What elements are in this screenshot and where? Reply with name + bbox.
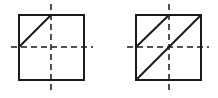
diagram-canvas [0,0,218,98]
left-square-figure [11,4,93,92]
diagonal-line [19,15,51,47]
right-square-figure [127,4,209,92]
diagonal-line [136,15,169,47]
